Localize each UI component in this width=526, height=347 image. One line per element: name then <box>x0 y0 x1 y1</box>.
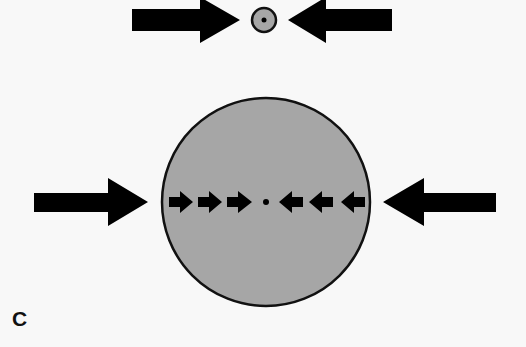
top-right-arrow-icon <box>288 0 392 43</box>
internal-arrows-right <box>279 191 365 213</box>
bottom-group <box>34 98 496 306</box>
bottom-left-arrow-icon <box>34 178 148 226</box>
panel-label: C <box>12 307 27 331</box>
compression-diagram <box>0 0 526 347</box>
large-sphere-center-dot <box>263 199 269 205</box>
bottom-right-arrow-icon <box>383 178 496 226</box>
internal-arrows-left <box>169 191 252 213</box>
top-group <box>132 0 392 43</box>
top-left-arrow-icon <box>132 0 240 43</box>
small-sphere-center-dot <box>262 18 267 23</box>
